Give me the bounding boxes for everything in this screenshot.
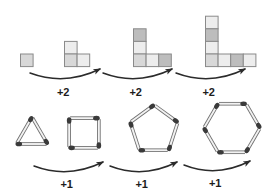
matchstick-head bbox=[16, 142, 23, 147]
tile-cell bbox=[159, 54, 172, 67]
arrow-plus-two bbox=[30, 69, 100, 79]
tile-cell bbox=[243, 54, 256, 67]
tile-cell bbox=[146, 54, 159, 67]
matchstick-head bbox=[67, 117, 72, 124]
tile-figure-1 bbox=[21, 54, 34, 67]
tile-cell bbox=[134, 54, 147, 67]
tile-cell bbox=[65, 54, 78, 67]
matchstick-body bbox=[247, 129, 259, 150]
tile-cell bbox=[206, 54, 219, 67]
matchstick-head bbox=[97, 142, 102, 149]
polygon-pentagon bbox=[128, 103, 180, 153]
matchstick-body bbox=[17, 119, 31, 143]
tile-cell bbox=[218, 54, 231, 67]
arrow-label-bottom: +1 bbox=[136, 179, 148, 190]
arrow-label-top: +2 bbox=[130, 87, 142, 98]
arrow-label-top: +2 bbox=[203, 87, 215, 98]
matchstick-head bbox=[217, 150, 224, 155]
matchstick-body bbox=[205, 106, 217, 127]
arrow-label-bottom: +1 bbox=[61, 179, 73, 190]
tile-cell bbox=[134, 29, 147, 42]
tile-cell bbox=[65, 41, 78, 54]
polygon-hexagon bbox=[202, 101, 263, 154]
diagram-canvas: +2+2+2+1+1+1 bbox=[0, 0, 279, 193]
matchstick-head bbox=[93, 116, 100, 121]
arrow-plus-one bbox=[34, 162, 103, 172]
polygon-square bbox=[67, 116, 101, 150]
tile-figure-4 bbox=[206, 16, 256, 66]
arrow-label-top: +2 bbox=[57, 87, 69, 98]
polygon-triangle bbox=[16, 115, 51, 146]
matchstick-body bbox=[247, 105, 259, 126]
matchstick-body bbox=[169, 123, 177, 148]
tile-cell bbox=[77, 54, 90, 67]
tile-figure-3 bbox=[134, 29, 172, 67]
arrow-plus-two bbox=[103, 69, 172, 79]
arrow-plus-two bbox=[176, 69, 245, 79]
arrow-plus-one bbox=[110, 162, 177, 172]
matchstick-head bbox=[138, 148, 145, 153]
tile-cell bbox=[206, 41, 219, 54]
matchstick-body bbox=[131, 124, 139, 149]
tile-cell bbox=[206, 16, 219, 29]
matchstick-head bbox=[68, 146, 75, 151]
matchstick-body bbox=[155, 106, 176, 121]
tile-cell bbox=[231, 54, 244, 67]
arrow-plus-one bbox=[184, 161, 250, 171]
matchstick-body bbox=[131, 106, 152, 121]
matchstick-head bbox=[240, 101, 247, 106]
tile-figure-2 bbox=[65, 41, 90, 66]
tile-cell bbox=[206, 29, 219, 42]
tile-cell bbox=[134, 41, 147, 54]
matchstick-body bbox=[33, 118, 47, 142]
matchstick-body bbox=[205, 130, 217, 151]
tile-cell bbox=[21, 54, 34, 67]
arrow-label-bottom: +1 bbox=[209, 178, 221, 189]
